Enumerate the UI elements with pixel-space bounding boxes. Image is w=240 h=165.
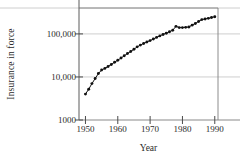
data-point [165,32,168,35]
plot-frame [79,0,240,120]
data-point [129,50,132,53]
data-point [181,26,184,29]
data-point [213,15,216,18]
data-point [168,30,171,33]
data-point [158,34,161,37]
data-point [184,26,187,29]
data-point [110,63,113,66]
data-point [152,38,155,41]
data-point [178,26,181,29]
data-point [126,52,129,55]
data-point [171,29,174,32]
data-point [197,20,200,23]
data-point [149,39,152,42]
data-point [145,41,148,44]
data-point [103,67,106,70]
data-point [123,54,126,57]
plot-area [0,0,240,165]
chart-figure: Insurance in force Year 100010,000100,00… [0,0,240,165]
data-point [136,45,139,48]
data-point [142,42,145,45]
series-line [85,17,214,94]
data-series-markers [84,15,216,95]
data-point [90,82,93,85]
data-point [116,59,119,62]
data-point [139,44,142,47]
data-point [191,24,194,27]
data-point [210,16,213,19]
data-point [200,18,203,21]
data-point [107,65,110,68]
data-point [94,77,97,80]
data-point [204,18,207,21]
data-point [113,61,116,64]
data-point [187,26,190,29]
data-point [100,69,103,72]
data-point [120,57,123,60]
data-point [84,93,87,96]
data-point [207,17,210,20]
data-point [162,33,165,36]
data-point [87,88,90,91]
data-point [175,25,178,28]
data-point [97,72,100,75]
data-point [194,22,197,25]
data-point [155,36,158,39]
data-point [133,48,136,51]
